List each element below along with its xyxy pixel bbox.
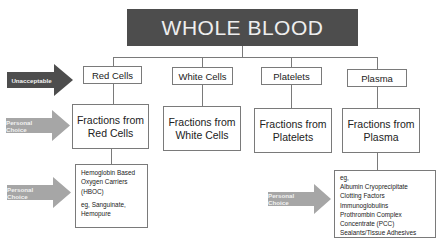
connector-title-down xyxy=(242,46,243,57)
component-red-cells: Red Cells xyxy=(83,66,142,84)
connector-platelets-drop xyxy=(291,57,292,67)
fractions-white-cells: Fractions from White Cells xyxy=(163,106,241,151)
fractions-plasma: Fractions from Plasma xyxy=(342,108,420,153)
fraction-line: Red Cells xyxy=(88,127,134,140)
detail-line: Hemopure xyxy=(81,209,111,218)
connector-red-to-fraction xyxy=(113,84,114,104)
component-white-cells: White Cells xyxy=(172,67,233,85)
detail-line: Immunoglobulins xyxy=(340,201,388,210)
connector-white-cells-drop xyxy=(202,57,203,67)
detail-line: eg, xyxy=(340,173,349,182)
arrow-label: Personal Choice xyxy=(268,184,316,214)
detail-line: Sealants/Tissue Adhesives xyxy=(340,228,416,237)
component-platelets: Platelets xyxy=(261,67,322,85)
component-label: Platelets xyxy=(273,71,309,82)
connector-plasma-drop xyxy=(377,57,378,69)
personal-choice-arrow-plasma: Personal Choice xyxy=(268,184,331,214)
connector-platelets-to-fraction xyxy=(291,85,292,108)
detail-line: Clotting Factors xyxy=(340,191,385,200)
connector-white-to-fraction xyxy=(202,85,203,106)
arrow-label: Unacceptable xyxy=(7,64,56,96)
detail-line: Concentrate (PCC) xyxy=(340,219,394,228)
whole-blood-title: WHOLE BLOOD xyxy=(127,9,358,46)
plasma-fraction-details: eg, Albumin Cryoprecipitate Clotting Fac… xyxy=(334,170,436,238)
fraction-line: Fractions from xyxy=(77,114,144,127)
component-label: Plasma xyxy=(361,73,393,84)
fraction-line: Platelets xyxy=(273,131,313,144)
detail-line: eg, Sanguinate, xyxy=(81,200,126,209)
fraction-line: Plasma xyxy=(363,131,398,144)
fraction-line: Fractions from xyxy=(347,118,414,131)
unacceptable-arrow: Unacceptable xyxy=(7,64,73,96)
arrow-label: Personal Choice xyxy=(7,177,55,208)
fraction-line: Fractions from xyxy=(259,118,326,131)
connector-horizontal xyxy=(113,57,377,58)
connector-red-cells-drop xyxy=(113,57,114,66)
red-cell-hboc-details: Hemoglobin Based Oxygen Carriers (HBOC) … xyxy=(75,164,148,228)
detail-line: (HBOC) xyxy=(81,187,104,196)
fraction-line: White Cells xyxy=(175,129,228,142)
connector-plasma-fraction-to-details xyxy=(377,153,378,170)
personal-choice-arrow-hboc: Personal Choice xyxy=(7,177,71,208)
component-label: Red Cells xyxy=(92,70,133,81)
detail-line: Hemoglobin Based xyxy=(81,168,135,177)
connector-plasma-to-fraction xyxy=(377,87,378,108)
fractions-platelets: Fractions from Platelets xyxy=(254,108,332,153)
fractions-red-cells: Fractions from Red Cells xyxy=(72,104,149,149)
arrow-label: Personal Choice xyxy=(6,110,54,141)
detail-line: Albumin Cryoprecipitate xyxy=(340,182,408,191)
detail-line: Prothrombin Complex xyxy=(340,210,402,219)
detail-line: Oxygen Carriers xyxy=(81,177,128,186)
component-label: White Cells xyxy=(178,71,226,82)
fraction-line: Fractions from xyxy=(168,116,235,129)
connector-red-fraction-to-hboc xyxy=(111,149,112,164)
personal-choice-arrow-fractions: Personal Choice xyxy=(6,110,70,141)
component-plasma: Plasma xyxy=(347,69,407,87)
